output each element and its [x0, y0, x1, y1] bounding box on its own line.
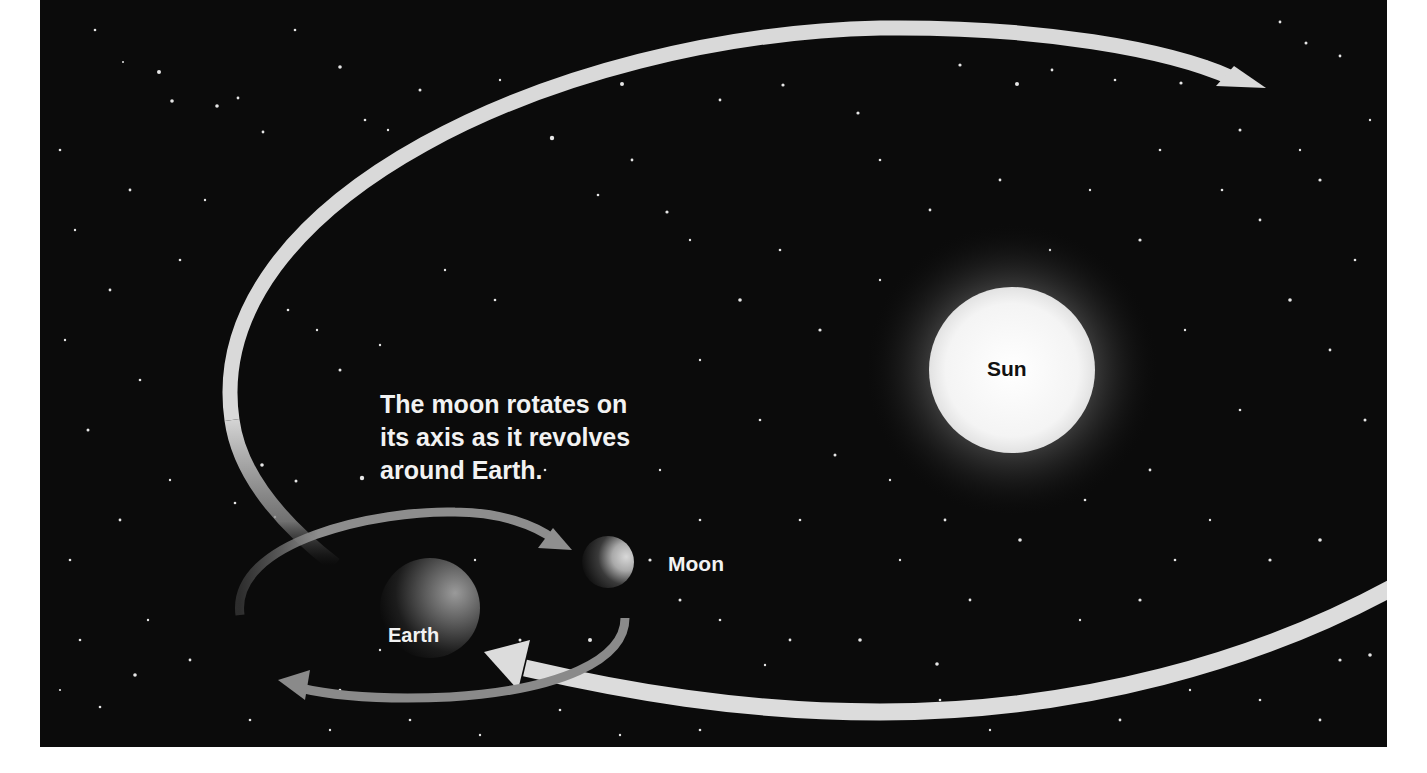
- space-background: [40, 0, 1387, 747]
- moon-label: Moon: [668, 552, 724, 576]
- caption-line-2: its axis as it revolves: [380, 421, 720, 454]
- diagram-caption: The moon rotates on its axis as it revol…: [380, 388, 720, 487]
- caption-line-1: The moon rotates on: [380, 388, 720, 421]
- sun-label: Sun: [987, 357, 1027, 381]
- moon: [582, 536, 634, 588]
- earth-label: Earth: [388, 624, 439, 647]
- caption-line-3: around Earth.: [380, 454, 720, 487]
- orbit-diagram: [0, 0, 1427, 773]
